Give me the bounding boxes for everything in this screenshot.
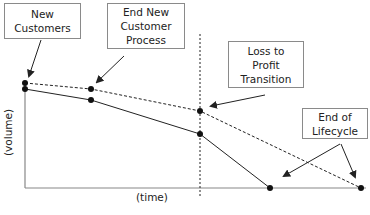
callout-line: End New (123, 5, 169, 19)
arrow-loss-to-profit (211, 95, 265, 106)
arrow-new-customers (29, 40, 41, 76)
callout-line: Loss to (248, 44, 285, 58)
arrow-end-of-lifecycle-dashed (341, 144, 355, 177)
data-point (88, 97, 94, 103)
data-point (22, 80, 28, 86)
x-axis-label: (time) (136, 191, 168, 203)
callout-line: Lifecycle (312, 124, 358, 138)
data-point (22, 86, 28, 92)
callout-new-customers: New Customers (4, 3, 81, 39)
callout-line: Process (126, 33, 166, 47)
arrow-end-of-lifecycle-solid (284, 144, 340, 176)
callout-line: New (31, 7, 54, 21)
data-point (197, 108, 203, 114)
callout-end-new-customer-process: End New Customer Process (107, 3, 185, 49)
arrow-end-new-customer-process (97, 56, 124, 82)
callout-line: Profit (252, 58, 279, 72)
callout-line: End of (318, 110, 351, 124)
data-point (267, 185, 273, 191)
callout-line: Transition (241, 72, 292, 86)
data-point (88, 86, 94, 92)
callout-line: Customer (120, 19, 171, 33)
solid-series-line (25, 89, 270, 188)
callout-line: Customers (14, 21, 70, 35)
data-point (358, 185, 364, 191)
y-axis-label: (volume) (2, 112, 14, 156)
callout-end-of-lifecycle: End of Lifecycle (302, 108, 368, 139)
data-point (197, 131, 203, 137)
callout-loss-to-profit-transition: Loss to Profit Transition (228, 41, 304, 88)
